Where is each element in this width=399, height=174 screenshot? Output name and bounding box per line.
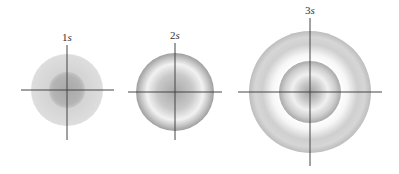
panel-2s: 2s <box>128 29 222 140</box>
panel-3s: 3s <box>238 4 382 166</box>
panel-1s: 1s <box>21 31 114 140</box>
wave-diagram: 1s 2s 3s <box>0 0 399 174</box>
time-label: 1s <box>62 31 72 43</box>
time-label: 2s <box>170 29 180 41</box>
time-label: 3s <box>305 4 315 16</box>
